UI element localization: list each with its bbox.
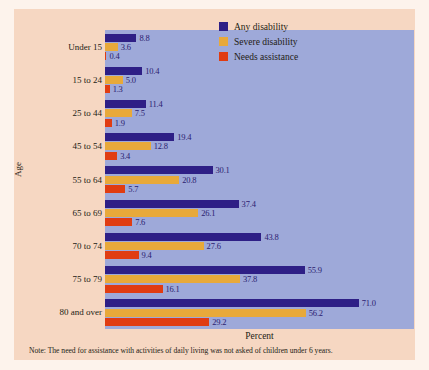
legend-swatch-any (219, 22, 228, 31)
bar-any (105, 100, 146, 108)
bar-row: 1.9 (105, 119, 414, 127)
bar-row: 3.4 (105, 152, 414, 160)
bar-needs (105, 152, 117, 160)
bar-row: 1.3 (105, 85, 414, 93)
bar-value-label: 0.4 (109, 51, 119, 61)
bar-needs (105, 85, 110, 93)
category-label: 70 to 74 (18, 241, 102, 251)
bar-any (105, 133, 174, 141)
bar-severe (105, 142, 151, 150)
category-label: 45 to 54 (18, 141, 102, 151)
bar-value-label: 1.3 (113, 84, 123, 94)
bar-value-label: 16.1 (166, 283, 180, 293)
category-label: 65 to 69 (18, 208, 102, 218)
bar-row: 37.8 (105, 275, 414, 283)
bar-row: 37.4 (105, 200, 414, 208)
legend-item[interactable]: Any disability (219, 20, 298, 33)
category-label: 75 to 79 (18, 274, 102, 284)
bar-any (105, 34, 136, 42)
bar-row: 27.6 (105, 242, 414, 250)
bar-value-label: 30.1 (216, 165, 230, 175)
legend-item[interactable]: Needs assistance (219, 50, 298, 63)
bar-needs (105, 251, 139, 259)
bar-value-label: 3.4 (120, 151, 130, 161)
bar-row: 5.7 (105, 185, 414, 193)
x-axis-title: Percent (105, 331, 414, 341)
category-label: 15 to 24 (18, 75, 102, 85)
category-label: 25 to 44 (18, 108, 102, 118)
bar-needs (105, 318, 209, 326)
legend-label: Needs assistance (234, 52, 298, 62)
bar-row: 43.8 (105, 233, 414, 241)
bar-any (105, 233, 261, 241)
bar-row: 10.4 (105, 67, 414, 75)
bar-value-label: 27.6 (207, 241, 221, 251)
bar-value-label: 20.8 (182, 174, 196, 184)
bar-row: 7.5 (105, 109, 414, 117)
category-label: 80 and over (18, 307, 102, 317)
bar-severe (105, 109, 132, 117)
category-label: 55 to 64 (18, 175, 102, 185)
bar-row: 29.2 (105, 318, 414, 326)
chart-note: Note: The need for assistance with activ… (29, 346, 409, 355)
bar-row: 16.1 (105, 285, 414, 293)
bar-row: 26.1 (105, 209, 414, 217)
bar-needs (105, 119, 112, 127)
legend-label: Severe disability (234, 37, 298, 47)
bar-needs (105, 218, 132, 226)
bar-needs (105, 185, 125, 193)
bar-group: 30.120.85.7 (105, 163, 414, 196)
bar-row: 11.4 (105, 100, 414, 108)
bar-row: 30.1 (105, 166, 414, 174)
bar-row: 56.2 (105, 309, 414, 317)
bar-value-label: 1.9 (115, 117, 125, 127)
bar-value-label: 5.7 (128, 184, 138, 194)
bar-group: 37.426.17.6 (105, 196, 414, 229)
bar-group: 10.45.01.3 (105, 63, 414, 96)
bar-severe (105, 43, 118, 51)
bar-value-label: 8.8 (139, 32, 149, 42)
bar-row: 5.0 (105, 76, 414, 84)
bar-needs (105, 285, 163, 293)
bar-value-label: 3.6 (121, 42, 131, 52)
y-axis-category-labels: Under 1515 to 2425 to 4445 to 5455 to 64… (14, 30, 102, 329)
bar-any (105, 166, 213, 174)
chart-card: Age Under 1515 to 2425 to 4445 to 5455 t… (14, 9, 415, 360)
bar-severe (105, 242, 204, 250)
bar-row: 12.8 (105, 142, 414, 150)
bar-any (105, 200, 239, 208)
bar-group: 11.47.51.9 (105, 96, 414, 129)
bar-group: 71.056.229.2 (105, 296, 414, 329)
bar-severe (105, 209, 198, 217)
bar-any (105, 67, 142, 75)
bar-value-label: 9.4 (142, 250, 152, 260)
bar-value-label: 37.4 (242, 198, 256, 208)
plot-area: 8.83.60.410.45.01.311.47.51.919.412.83.4… (105, 30, 414, 329)
bar-any (105, 299, 359, 307)
bar-row: 20.8 (105, 176, 414, 184)
bar-value-label: 7.6 (135, 217, 145, 227)
bar-group: 55.937.816.1 (105, 263, 414, 296)
bar-value-label: 10.4 (145, 66, 159, 76)
legend-swatch-needs (219, 52, 228, 61)
bar-value-label: 19.4 (177, 132, 191, 142)
bar-group: 43.827.69.4 (105, 229, 414, 262)
legend-swatch-severe (219, 37, 228, 46)
bar-value-label: 71.0 (362, 298, 376, 308)
chart-legend: Any disabilitySevere disabilityNeeds ass… (219, 20, 298, 65)
bar-value-label: 56.2 (309, 307, 323, 317)
bar-value-label: 29.2 (212, 317, 226, 327)
bar-severe (105, 76, 123, 84)
bar-any (105, 266, 305, 274)
bar-severe (105, 309, 306, 317)
disability-by-age-chart: Age Under 1515 to 2425 to 4445 to 5455 t… (0, 0, 429, 370)
bar-row: 55.9 (105, 266, 414, 274)
bar-row: 71.0 (105, 299, 414, 307)
bar-row: 9.4 (105, 251, 414, 259)
bar-row: 7.6 (105, 218, 414, 226)
legend-item[interactable]: Severe disability (219, 35, 298, 48)
bar-row: 19.4 (105, 133, 414, 141)
bar-value-label: 12.8 (154, 141, 168, 151)
category-label: Under 15 (18, 42, 102, 52)
bar-needs (105, 52, 106, 60)
